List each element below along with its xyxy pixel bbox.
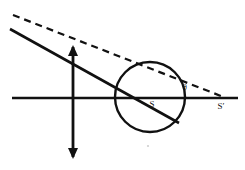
page-speck-dot — [147, 145, 149, 147]
optics-figure: S Sʹ θ — [0, 0, 245, 170]
optics-diagram-canvas: S Sʹ θ — [0, 0, 245, 170]
label-vertex-s-prime: Sʹ — [218, 101, 225, 111]
label-vertex-s: S — [149, 99, 154, 109]
object-arrow-head-down — [68, 148, 78, 159]
object-arrow-head-up — [68, 45, 78, 56]
label-angle-theta: θ — [183, 83, 187, 92]
